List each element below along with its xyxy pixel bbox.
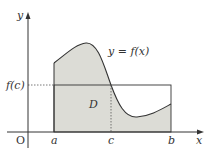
- region-label: D: [88, 98, 98, 111]
- y-axis-arrow-icon: [26, 12, 31, 19]
- fc-label: f(c): [5, 79, 25, 92]
- x-axis-label: x: [196, 134, 203, 147]
- curve-label: y = f(x): [107, 45, 149, 58]
- b-tick-label: b: [168, 134, 175, 147]
- origin-label: O: [16, 134, 25, 147]
- diagram: y x O y = f(x) f(c) D a c b: [0, 0, 209, 162]
- a-tick-label: a: [51, 134, 58, 147]
- y-axis-label: y: [16, 9, 24, 22]
- c-tick-label: c: [108, 134, 114, 147]
